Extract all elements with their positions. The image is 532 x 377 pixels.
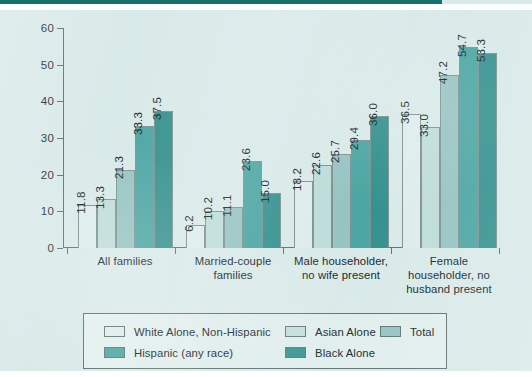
legend-row-1: White Alone, Non-Hispanic Asian Alone To… xyxy=(84,321,446,342)
legend-label-white-alone-non-hispanic: White Alone, Non-Hispanic xyxy=(134,326,271,338)
legend-swatch-asian-alone xyxy=(285,326,306,337)
y-axis-tick xyxy=(57,28,63,29)
chart-panel: 0102030405060 11.813.321.333.337.56.210.… xyxy=(0,10,532,371)
bar[interactable]: 37.5 xyxy=(154,111,173,249)
bar[interactable]: 11.8 xyxy=(78,205,97,248)
y-axis-tick xyxy=(57,248,63,249)
bar-value-label: 10.2 xyxy=(203,197,215,220)
legend-label-black-alone: Black Alone xyxy=(315,347,375,359)
bar[interactable]: 53.3 xyxy=(478,53,497,248)
bar-group: 6.210.211.123.615.0 xyxy=(179,28,287,248)
bar-value-label: 18.2 xyxy=(292,168,304,191)
bar-value-label: 54.7 xyxy=(457,34,469,57)
bar[interactable]: 15.0 xyxy=(262,193,281,248)
bar-value-label: 53.3 xyxy=(476,39,488,62)
bar-value-label: 6.2 xyxy=(184,215,196,232)
legend-label-hispanic-any-race: Hispanic (any race) xyxy=(134,347,233,359)
bar[interactable]: 54.7 xyxy=(459,47,478,248)
bar[interactable]: 11.1 xyxy=(224,207,243,248)
chart-screenshot: 0102030405060 11.813.321.333.337.56.210.… xyxy=(0,0,532,377)
legend-item-total[interactable]: Total xyxy=(380,321,434,342)
legend-item-black-alone[interactable]: Black Alone xyxy=(285,342,375,363)
y-axis-tick xyxy=(57,65,63,66)
bar-value-label: 23.6 xyxy=(241,148,253,171)
bar-value-label: 33.3 xyxy=(133,112,145,135)
bar-value-label: 21.3 xyxy=(114,156,126,179)
x-axis-separator-tick xyxy=(67,248,68,254)
bar[interactable]: 33.3 xyxy=(135,126,154,248)
legend-label-total: Total xyxy=(410,326,434,338)
x-axis-category-line: householder, no xyxy=(381,269,517,283)
y-axis-tick xyxy=(57,175,63,176)
legend-swatch-hispanic-any-race xyxy=(104,347,125,358)
legend-item-white-alone-non-hispanic[interactable]: White Alone, Non-Hispanic xyxy=(104,321,271,342)
y-axis-tick xyxy=(57,211,63,212)
x-axis-separator-tick xyxy=(391,248,392,254)
legend-row-2: Hispanic (any race) Black Alone xyxy=(84,342,446,363)
y-axis-tick-label: 20 xyxy=(41,169,54,181)
legend-swatch-white-alone-non-hispanic xyxy=(104,326,125,337)
bar-group: 36.533.047.254.753.3 xyxy=(395,28,503,248)
y-axis-line xyxy=(63,28,64,248)
bar-value-label: 25.7 xyxy=(330,140,342,163)
bar[interactable]: 22.6 xyxy=(313,165,332,248)
y-axis-tick-label: 30 xyxy=(41,132,54,144)
legend-label-asian-alone: Asian Alone xyxy=(315,326,376,338)
bar[interactable]: 23.6 xyxy=(243,161,262,248)
bar-value-label: 11.1 xyxy=(222,194,234,216)
legend-item-hispanic-any-race[interactable]: Hispanic (any race) xyxy=(104,342,233,363)
bar-value-label: 29.4 xyxy=(349,127,361,150)
bar[interactable]: 25.7 xyxy=(332,154,351,248)
x-axis-category-line: Female xyxy=(381,255,517,269)
x-axis-category-line: husband present xyxy=(381,283,517,297)
x-axis-separator-tick xyxy=(499,248,500,254)
legend-swatch-total xyxy=(380,326,401,337)
bar-value-label: 37.5 xyxy=(152,97,164,120)
chart-legend: White Alone, Non-Hispanic Asian Alone To… xyxy=(83,313,447,369)
y-axis-tick xyxy=(57,138,63,139)
x-axis-category-label: Femalehouseholder, nohusband present xyxy=(381,255,517,296)
y-axis-tick xyxy=(57,101,63,102)
bar-value-label: 15.0 xyxy=(260,179,272,202)
bar[interactable]: 18.2 xyxy=(294,181,313,248)
bar-value-label: 36.5 xyxy=(400,101,412,124)
bar[interactable]: 36.0 xyxy=(370,116,389,248)
y-axis-tick-label: 40 xyxy=(41,95,54,107)
bar-value-label: 22.6 xyxy=(311,152,323,175)
x-axis-separator-tick xyxy=(175,248,176,254)
legend-item-asian-alone[interactable]: Asian Alone xyxy=(285,321,376,342)
y-axis-tick-label: 10 xyxy=(41,205,54,217)
plot-area: 0102030405060 11.813.321.333.337.56.210.… xyxy=(63,28,495,248)
bar[interactable]: 13.3 xyxy=(97,199,116,248)
bar[interactable]: 33.0 xyxy=(421,127,440,248)
bar-value-label: 33.0 xyxy=(419,113,431,136)
bar-value-label: 13.3 xyxy=(95,186,107,209)
bar[interactable]: 21.3 xyxy=(116,170,135,248)
bar[interactable]: 29.4 xyxy=(351,140,370,248)
bar-group: 11.813.321.333.337.5 xyxy=(71,28,179,248)
bar-value-label: 36.0 xyxy=(368,102,380,125)
legend-swatch-black-alone xyxy=(285,347,306,358)
y-axis-tick-label: 50 xyxy=(41,59,54,71)
y-axis-tick-label: 0 xyxy=(47,242,54,254)
x-axis-separator-tick xyxy=(283,248,284,254)
bar-value-label: 47.2 xyxy=(438,61,450,84)
bar-value-label: 11.8 xyxy=(76,192,88,214)
bar-group: 18.222.625.729.436.0 xyxy=(287,28,395,248)
y-axis-tick-label: 60 xyxy=(41,22,54,34)
bar[interactable]: 47.2 xyxy=(440,75,459,248)
bar[interactable]: 6.2 xyxy=(186,225,205,248)
